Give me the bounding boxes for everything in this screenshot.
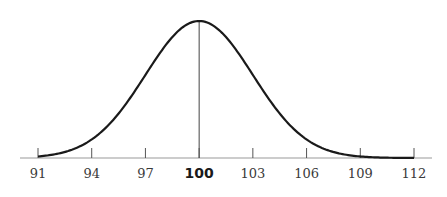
x-tick-label: 97 xyxy=(137,166,154,181)
x-tick-label: 100 xyxy=(185,165,214,181)
x-tick-label: 109 xyxy=(348,166,373,181)
x-tick-label: 94 xyxy=(83,166,100,181)
x-tick-label: 112 xyxy=(402,166,427,181)
x-tick-label: 91 xyxy=(30,166,47,181)
x-tick-label: 103 xyxy=(240,166,265,181)
density-curve xyxy=(38,21,414,158)
x-axis-tick-labels: 919497100103106109112 xyxy=(30,165,427,181)
x-tick-label: 106 xyxy=(294,166,319,181)
normal-distribution-chart: 919497100103106109112 xyxy=(0,0,447,197)
